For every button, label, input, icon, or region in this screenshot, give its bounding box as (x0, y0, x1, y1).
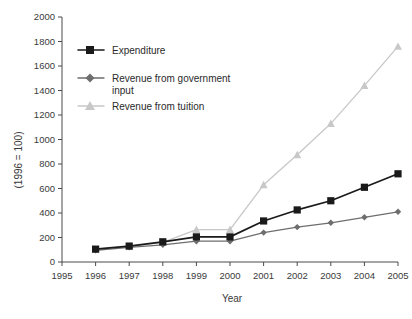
legend-label-government-line2: input (112, 85, 134, 96)
data-point-square (294, 206, 301, 213)
y-tick-label: 1000 (34, 134, 55, 145)
x-axis-title: Year (222, 293, 243, 304)
data-point-square (394, 170, 401, 177)
data-point-square (159, 238, 166, 245)
y-tick-label: 600 (39, 183, 55, 194)
x-tick-label: 1995 (51, 270, 72, 281)
y-tick-label: 1200 (34, 109, 55, 120)
data-point-square (126, 242, 133, 249)
y-axis-title: (1996 = 100) (13, 132, 24, 189)
legend-item-expenditure: Expenditure (78, 45, 166, 56)
square-marker-icon (86, 46, 94, 54)
data-point-square (92, 246, 99, 253)
data-point-square (260, 217, 267, 224)
y-tick-label: 0 (50, 256, 55, 267)
y-tick-label: 1400 (34, 85, 55, 96)
y-tick-label: 400 (39, 207, 55, 218)
data-point-square (193, 233, 200, 240)
data-point-square (327, 197, 334, 204)
x-tick-label: 1998 (152, 270, 173, 281)
legend-label-expenditure: Expenditure (112, 45, 166, 56)
y-tick-label: 1600 (34, 60, 55, 71)
y-tick-label: 200 (39, 232, 55, 243)
y-tick-label: 1800 (34, 36, 55, 47)
x-tick-label: 2002 (287, 270, 308, 281)
x-tick-label: 2005 (387, 270, 408, 281)
x-tick-label: 2004 (354, 270, 375, 281)
chart-container: 0200400600800100012001400160018002000 19… (0, 0, 412, 319)
legend-label-government: Revenue from government (112, 73, 231, 84)
y-tick-label: 2000 (34, 11, 55, 22)
x-tick-label: 1999 (186, 270, 207, 281)
y-tick-label: 800 (39, 158, 55, 169)
data-point-square (361, 184, 368, 191)
legend-label-tuition: Revenue from tuition (112, 101, 204, 112)
x-tick-label: 2000 (219, 270, 240, 281)
x-tick-label: 2001 (253, 270, 274, 281)
line-chart: 0200400600800100012001400160018002000 19… (0, 0, 412, 319)
x-tick-label: 1997 (119, 270, 140, 281)
x-tick-label: 1996 (85, 270, 106, 281)
data-point-square (226, 233, 233, 240)
x-tick-label: 2003 (320, 270, 341, 281)
